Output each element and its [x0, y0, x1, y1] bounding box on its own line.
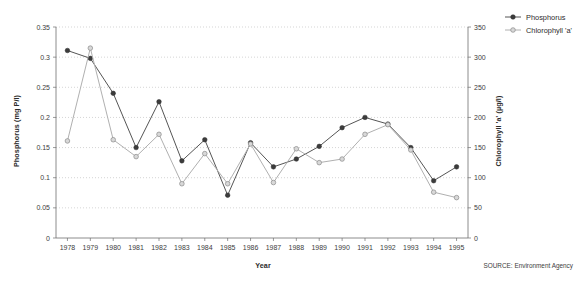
- data-point-phosphorus-1987: [271, 165, 276, 170]
- x-tick-label: 1980: [105, 244, 121, 251]
- x-tick-label: 1993: [403, 244, 419, 251]
- grid-lines: [56, 27, 468, 208]
- y-tick-label: 0: [46, 235, 50, 242]
- axes: [56, 27, 468, 238]
- legend-item-phosphorus: Phosphorus: [505, 13, 566, 22]
- x-tick-label: 1991: [357, 244, 373, 251]
- x-tick-label: 1978: [60, 244, 76, 251]
- x-tick-label: 1992: [380, 244, 396, 251]
- phosphorus-chlorophyll-chart: 00.050.10.150.20.250.30.35 0501001502002…: [0, 0, 582, 283]
- y-axis-title: Phosphorus (mg P/l): [12, 94, 21, 167]
- y-tick-label: 0.1: [40, 174, 50, 181]
- y2-tick-label: 250: [474, 84, 486, 91]
- legend-marker-phosphorus: [511, 15, 516, 20]
- data-point-chlorophyll-1988: [294, 146, 299, 151]
- y-tick-label: 0.05: [36, 204, 50, 211]
- data-point-phosphorus-1980: [111, 91, 116, 96]
- y-tick-label: 0.25: [36, 84, 50, 91]
- x-tick-label: 1982: [151, 244, 167, 251]
- x-tick-label: 1983: [174, 244, 190, 251]
- y2-tick-label: 300: [474, 54, 486, 61]
- data-point-chlorophyll-1989: [317, 160, 322, 165]
- x-axis-ticks: 1978197919801981198219831984198519861987…: [60, 238, 465, 251]
- y-tick-label: 0.35: [36, 24, 50, 31]
- legend-label-phosphorus: Phosphorus: [526, 13, 566, 22]
- x-tick-label: 1994: [426, 244, 442, 251]
- y2-tick-label: 0: [474, 235, 478, 242]
- data-point-phosphorus-1983: [180, 159, 185, 164]
- data-point-chlorophyll-1986: [248, 142, 253, 147]
- x-tick-label: 1989: [311, 244, 327, 251]
- data-point-phosphorus-1981: [134, 145, 139, 150]
- y-tick-label: 0.15: [36, 144, 50, 151]
- x-tick-label: 1984: [197, 244, 213, 251]
- data-series: [65, 46, 459, 200]
- data-point-chlorophyll-1987: [271, 180, 276, 185]
- y2-axis-title: Chlorophyll 'a' (µg/l): [494, 95, 503, 166]
- data-point-phosphorus-1982: [157, 99, 162, 104]
- data-point-phosphorus-1994: [431, 178, 436, 183]
- y2-tick-label: 350: [474, 24, 486, 31]
- y2-tick-label: 200: [474, 114, 486, 121]
- y2-tick-label: 100: [474, 174, 486, 181]
- y-tick-label: 0.3: [40, 54, 50, 61]
- data-point-chlorophyll-1983: [180, 181, 185, 186]
- data-point-chlorophyll-1980: [111, 137, 116, 142]
- x-tick-label: 1985: [220, 244, 236, 251]
- series-line-phosphorus: [67, 51, 456, 196]
- x-tick-label: 1988: [289, 244, 305, 251]
- data-point-chlorophyll-1982: [157, 132, 162, 137]
- x-tick-label: 1990: [334, 244, 350, 251]
- data-point-chlorophyll-1978: [65, 139, 70, 144]
- x-axis-title: Year: [255, 261, 271, 270]
- data-point-chlorophyll-1979: [88, 46, 93, 51]
- legend-item-chlorophyll: Chlorophyll 'a': [505, 26, 573, 35]
- y2-tick-label: 150: [474, 144, 486, 151]
- data-point-phosphorus-1990: [340, 125, 345, 130]
- y2-axis-ticks: 050100150200250300350: [468, 24, 486, 242]
- data-point-phosphorus-1978: [65, 48, 70, 53]
- x-tick-label: 1981: [128, 244, 144, 251]
- x-tick-label: 1979: [83, 244, 99, 251]
- data-point-phosphorus-1991: [363, 115, 368, 120]
- data-point-phosphorus-1979: [88, 56, 93, 61]
- data-point-chlorophyll-1995: [454, 195, 459, 200]
- data-point-chlorophyll-1991: [363, 132, 368, 137]
- chart-legend: Phosphorus Chlorophyll 'a': [505, 13, 573, 35]
- data-point-chlorophyll-1985: [225, 181, 230, 186]
- x-tick-label: 1986: [243, 244, 259, 251]
- legend-label-chlorophyll: Chlorophyll 'a': [526, 26, 573, 35]
- data-point-chlorophyll-1994: [431, 190, 436, 195]
- y-axis-ticks: 00.050.10.150.20.250.30.35: [36, 24, 56, 242]
- data-point-phosphorus-1988: [294, 157, 299, 162]
- x-tick-label: 1987: [266, 244, 282, 251]
- data-point-phosphorus-1985: [225, 193, 230, 198]
- data-point-chlorophyll-1984: [202, 151, 207, 156]
- data-point-chlorophyll-1990: [340, 157, 345, 162]
- data-point-chlorophyll-1981: [134, 154, 139, 159]
- data-point-chlorophyll-1992: [386, 122, 391, 127]
- source-note: SOURCE: Environment Agency: [483, 262, 573, 270]
- x-tick-label: 1995: [449, 244, 465, 251]
- data-point-phosphorus-1984: [202, 137, 207, 142]
- y2-tick-label: 50: [474, 204, 482, 211]
- data-point-phosphorus-1995: [454, 165, 459, 170]
- data-point-phosphorus-1989: [317, 144, 322, 149]
- y-tick-label: 0.2: [40, 114, 50, 121]
- data-point-chlorophyll-1993: [408, 148, 413, 153]
- legend-marker-chlorophyll: [511, 28, 516, 33]
